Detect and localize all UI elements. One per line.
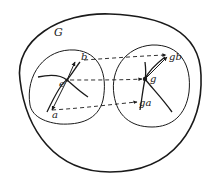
label-b: b [81, 51, 87, 62]
group-diagram: G b e a gb g ga [0, 0, 207, 182]
label-gb: gb [169, 51, 182, 62]
label-e: e [59, 78, 65, 89]
map-arrow-a-ga [52, 102, 137, 110]
map-arrow-e-g [70, 79, 142, 80]
label-a: a [52, 109, 58, 120]
group-boundary [19, 14, 201, 172]
label-ga: ga [139, 97, 151, 108]
label-g: g [150, 73, 156, 84]
left-region [29, 50, 104, 124]
label-G: G [54, 26, 63, 39]
point-e [65, 78, 68, 81]
point-g [143, 77, 147, 81]
